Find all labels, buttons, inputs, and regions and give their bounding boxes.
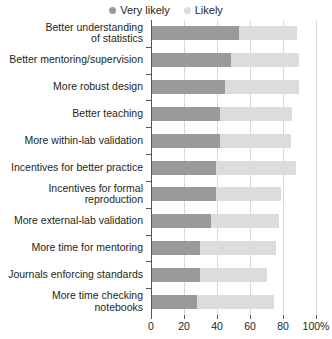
bar-segment-likely: [200, 268, 268, 282]
bar-segment-very-likely: [152, 295, 197, 309]
x-tick-80: [283, 315, 284, 319]
bar-row: [152, 134, 317, 148]
bar-segment-very-likely: [152, 80, 225, 94]
category-label-8: More time for mentoring: [0, 235, 143, 262]
x-tick-40: [217, 315, 218, 319]
bar-segment-very-likely: [152, 26, 239, 40]
category-label-line: of statistics: [91, 33, 143, 45]
bar-series-container: [152, 20, 317, 315]
bar-segment-very-likely: [152, 161, 216, 175]
category-label-3: Better teaching: [0, 100, 143, 127]
category-label-1: Better mentoring/supervision: [0, 47, 143, 74]
bar-segment-very-likely: [152, 268, 200, 282]
plot-area: [151, 20, 317, 315]
survey-stacked-bar-chart: Very likelyLikely Better understandingof…: [0, 0, 332, 339]
x-tick-0: [151, 315, 152, 319]
bar-segment-likely: [197, 295, 275, 309]
x-tick-label-100: 100%: [303, 320, 330, 332]
category-axis-labels: Better understandingof statisticsBetter …: [0, 20, 147, 315]
bar-segment-very-likely: [152, 214, 211, 228]
bar-segment-very-likely: [152, 53, 231, 67]
bar-row: [152, 241, 317, 255]
legend-swatch-icon: [109, 7, 116, 14]
bar-segment-likely: [211, 214, 279, 228]
bar-row: [152, 268, 317, 282]
category-label-line: Incentives for better practice: [11, 162, 143, 174]
category-label-line: reproduction: [85, 194, 143, 206]
bar-segment-very-likely: [152, 241, 200, 255]
bar-row: [152, 107, 317, 121]
x-tick-label-0: 0: [148, 320, 154, 332]
bar-row: [152, 53, 317, 67]
category-label-line: notebooks: [95, 302, 143, 314]
category-label-line: Better teaching: [72, 108, 143, 120]
legend-label: Very likely: [120, 5, 170, 16]
category-label-line: More external-lab validation: [14, 215, 143, 227]
category-label-2: More robust design: [0, 74, 143, 101]
bar-row: [152, 161, 317, 175]
bar-segment-likely: [220, 107, 293, 121]
x-tick-label-60: 60: [244, 320, 256, 332]
legend-swatch-icon: [184, 7, 191, 14]
category-label-line: More robust design: [53, 81, 143, 93]
legend-item-very-likely: Very likely: [109, 5, 170, 16]
category-label-5: Incentives for better practice: [0, 154, 143, 181]
x-tick-label-20: 20: [178, 320, 190, 332]
x-tick-60: [250, 315, 251, 319]
bar-row: [152, 187, 317, 201]
category-label-0: Better understandingof statistics: [0, 20, 143, 47]
bar-segment-very-likely: [152, 187, 216, 201]
category-label-line: Journals enforcing standards: [8, 269, 143, 281]
category-label-line: More time checking: [52, 290, 143, 302]
bar-row: [152, 214, 317, 228]
bar-row: [152, 26, 317, 40]
category-label-line: Better mentoring/supervision: [9, 54, 143, 66]
bar-segment-likely: [225, 80, 299, 94]
category-label-10: More time checkingnotebooks: [0, 288, 143, 315]
bar-segment-likely: [200, 241, 276, 255]
bar-row: [152, 80, 317, 94]
category-label-6: Incentives for formalreproduction: [0, 181, 143, 208]
category-label-line: More within-lab validation: [25, 135, 143, 147]
bar-segment-likely: [239, 26, 297, 40]
legend-label: Likely: [195, 5, 223, 16]
x-tick-label-80: 80: [277, 320, 289, 332]
bar-segment-very-likely: [152, 107, 220, 121]
bar-segment-likely: [216, 161, 295, 175]
value-axis-labels: 020406080100%: [0, 320, 332, 334]
bar-segment-likely: [216, 187, 280, 201]
category-label-7: More external-lab validation: [0, 208, 143, 235]
x-tick-label-40: 40: [211, 320, 223, 332]
bar-segment-likely: [231, 53, 299, 67]
category-label-line: More time for mentoring: [32, 242, 143, 254]
chart-legend: Very likelyLikely: [0, 2, 332, 18]
bar-segment-very-likely: [152, 134, 220, 148]
legend-item-likely: Likely: [184, 5, 223, 16]
x-tick-100: [316, 315, 317, 319]
category-label-9: Journals enforcing standards: [0, 261, 143, 288]
category-label-4: More within-lab validation: [0, 127, 143, 154]
bar-row: [152, 295, 317, 309]
bar-segment-likely: [220, 134, 291, 148]
x-tick-20: [184, 315, 185, 319]
